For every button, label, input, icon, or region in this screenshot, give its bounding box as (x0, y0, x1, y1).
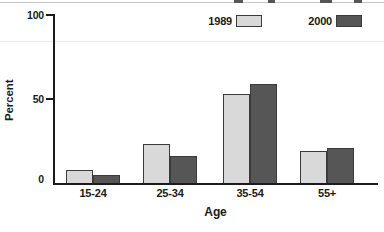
x-tick-label: 55+ (297, 187, 357, 199)
legend-label-2000: 2000 (300, 15, 332, 27)
bar-chart-figure: Percent Age 050100 15-2425-3435-5455+ 19… (0, 0, 384, 232)
y-tick-label: 100 (6, 9, 44, 21)
legend-swatch-2000 (336, 15, 362, 27)
bar-2000-15-24 (93, 175, 120, 183)
y-tick-label: 0 (6, 173, 44, 185)
cropped-title-fragment (234, 0, 243, 3)
x-axis-title: Age (53, 205, 378, 219)
x-axis-line (53, 183, 378, 185)
y-tick-mark (46, 14, 54, 16)
bar-2000-35-54 (250, 84, 277, 183)
cropped-title-fragment (320, 0, 332, 3)
scan-artifact-line (0, 41, 384, 42)
cropped-title-fragment (268, 0, 275, 3)
bar-1989-25-34 (143, 144, 170, 183)
bar-1989-55+ (300, 151, 327, 183)
bar-1989-35-54 (223, 94, 250, 183)
legend-swatch-1989 (236, 15, 262, 27)
y-tick-label: 50 (6, 93, 44, 105)
bar-2000-25-34 (170, 156, 197, 183)
bar-1989-15-24 (66, 170, 93, 183)
x-tick-label: 15-24 (63, 187, 123, 199)
x-tick-label: 35-54 (220, 187, 280, 199)
x-tick-label: 25-34 (140, 187, 200, 199)
bar-2000-55+ (327, 148, 354, 183)
legend-label-1989: 1989 (200, 15, 232, 27)
cropped-title-fragment (354, 0, 362, 3)
y-tick-mark (46, 98, 54, 100)
